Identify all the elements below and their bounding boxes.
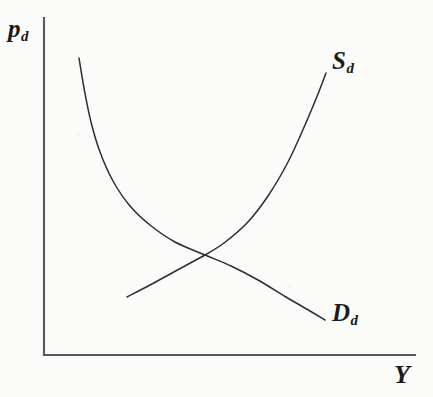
supply-demand-figure: pd Y Sd Dd xyxy=(0,0,433,397)
supply-label-subscript: d xyxy=(346,60,354,76)
y-axis-label-subscript: d xyxy=(21,28,29,44)
supply-curve-label: Sd xyxy=(332,48,354,76)
demand-curve-label: Dd xyxy=(332,300,358,328)
x-axis-label-base: Y xyxy=(394,360,410,389)
x-axis-label: Y xyxy=(394,362,410,388)
y-axis-label: pd xyxy=(8,16,29,44)
y-axis-label-base: p xyxy=(8,15,21,42)
demand-curve xyxy=(79,58,325,320)
plot-canvas xyxy=(0,0,433,397)
demand-label-subscript: d xyxy=(351,312,359,328)
demand-label-base: D xyxy=(332,299,350,326)
supply-label-base: S xyxy=(332,47,346,74)
